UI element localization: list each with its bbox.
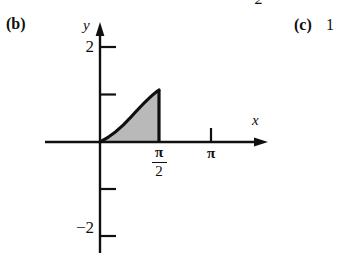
y-axis-label: y (83, 18, 90, 33)
x-tick-label-pi-over-2-numerator: π (144, 145, 174, 161)
part-c-value-text: 1 (326, 17, 334, 33)
figure-panel-b: (b) (c) 1 2 y x 2 −2 π 2 π (0, 0, 342, 253)
part-label-c: (c) (294, 17, 312, 33)
y-axis-arrowhead (96, 22, 105, 36)
x-axis-arrowhead (254, 137, 268, 146)
part-label-b: (b) (6, 16, 26, 32)
x-tick-label-pi: π (196, 146, 226, 161)
plot-svg (0, 0, 342, 253)
x-tick-label-pi-over-2-denominator: 2 (144, 164, 174, 180)
x-tick-label-pi-over-2: π 2 (144, 145, 174, 180)
y-tick-label-2: 2 (72, 38, 94, 55)
x-axis-label: x (252, 113, 259, 128)
y-tick-label-neg-2: −2 (60, 219, 94, 236)
clipped-numeral-top: 2 (255, 0, 263, 7)
